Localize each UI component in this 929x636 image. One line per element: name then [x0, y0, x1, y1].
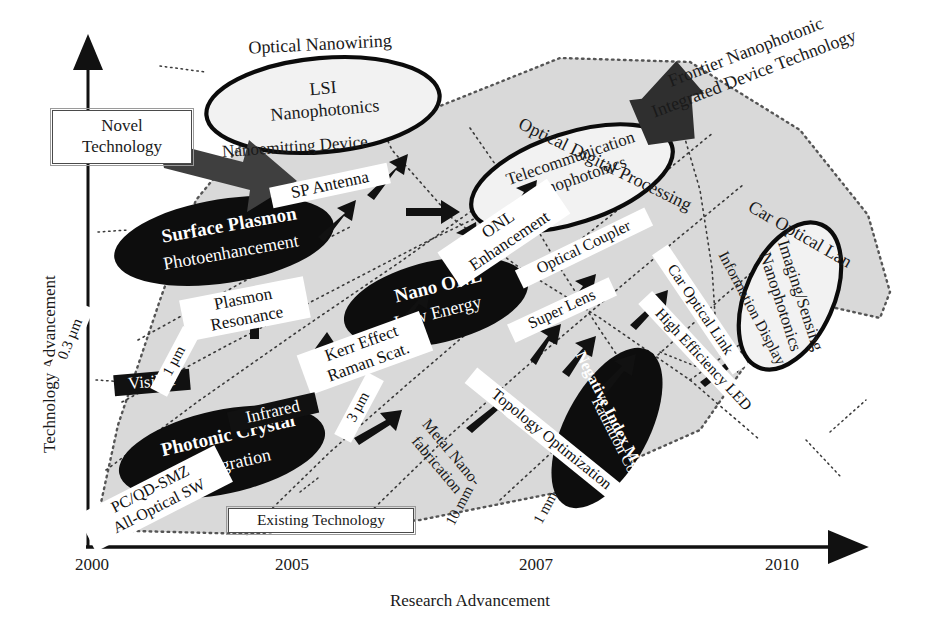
x-tick-2010: 2010 — [752, 556, 812, 574]
novel-technology-box[interactable]: Novel Technology — [52, 110, 192, 164]
existing-technology-box[interactable]: Existing Technology — [228, 508, 414, 533]
roadmap-figure: Technology Advancement Research Advancem… — [0, 0, 929, 636]
x-tick-2005: 2005 — [262, 556, 322, 574]
x-tick-2007: 2007 — [506, 556, 566, 574]
x-axis-title: Research Advancement — [350, 592, 590, 610]
x-tick-2000: 2000 — [62, 556, 122, 574]
